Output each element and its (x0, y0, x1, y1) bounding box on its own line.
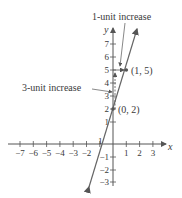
svg-text:−4: −4 (55, 148, 65, 158)
y-tick-labels: 7 6 5 4 3 2 1 −1 −2 −3 (99, 39, 109, 187)
svg-text:7: 7 (105, 39, 110, 49)
svg-text:1: 1 (124, 148, 129, 158)
point-label-1-5: (1, 5) (131, 65, 153, 77)
one-unit-pointer (120, 23, 125, 66)
svg-text:−6: −6 (29, 148, 39, 158)
svg-text:−2: −2 (99, 165, 109, 175)
svg-text:−7: −7 (15, 148, 25, 158)
graph-canvas: −7 −6 −5 −4 −3 −2 1 2 3 1 7 6 5 4 3 2 1 … (0, 0, 182, 198)
x-tick-labels: −7 −6 −5 −4 −3 −2 1 2 3 (15, 148, 155, 158)
one-unit-increase-label: 1-unit increase (92, 11, 152, 22)
x-axis-label: x (167, 141, 173, 152)
point-0-2 (111, 107, 115, 111)
svg-text:3: 3 (151, 148, 156, 158)
point-label-0-2: (0, 2) (118, 104, 140, 116)
svg-text:4: 4 (105, 78, 110, 88)
three-unit-pointer (92, 89, 112, 92)
svg-text:−5: −5 (42, 148, 52, 158)
svg-text:−3: −3 (99, 177, 109, 187)
svg-text:2: 2 (105, 104, 110, 114)
svg-text:−1: −1 (99, 152, 109, 162)
svg-text:3: 3 (105, 91, 110, 101)
svg-text:−2: −2 (82, 148, 92, 158)
svg-text:−3: −3 (68, 148, 78, 158)
point-1-5 (125, 68, 129, 72)
svg-text:5: 5 (105, 65, 110, 75)
three-unit-increase-label: 3-unit increase (22, 82, 82, 93)
svg-text:2: 2 (137, 148, 142, 158)
svg-text:6: 6 (105, 52, 110, 62)
y-axis-label: y (103, 24, 109, 35)
